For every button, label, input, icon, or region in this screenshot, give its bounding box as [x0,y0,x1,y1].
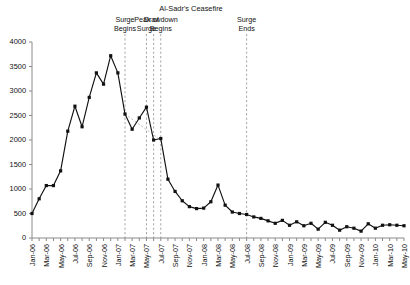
x-axis-tick-label: Jan-10 [371,244,380,266]
x-axis-tick-label: May-09 [314,244,323,268]
data-point-marker [288,224,291,227]
data-point-marker [259,217,262,220]
data-point-marker [188,205,191,208]
x-axis-tick-label: Sep-07 [171,244,180,267]
casualties-series [30,54,405,233]
data-point-marker [238,212,241,215]
data-point-marker [266,219,269,222]
data-point-marker [116,71,119,74]
event-label-line1: Surge [115,15,134,24]
data-point-marker [295,220,298,223]
event-label-surge-ends: SurgeEnds [237,15,256,33]
x-axis-tick-label: Nov-07 [185,244,194,267]
data-point-marker [145,106,148,109]
data-point-marker [209,200,212,203]
chart-canvas: Al-Sadr's Ceasefire SurgeBeginsPeak ofSu… [0,0,410,285]
data-point-marker [274,222,277,225]
y-axis-tick-label: 3000 [10,86,26,95]
y-axis-tick-label: 3500 [10,62,26,71]
ceasefire-trend-line [125,114,161,140]
ceasefire-title-label: Al-Sadr's Ceasefire [159,4,222,13]
data-point-marker [352,227,355,230]
event-label-line1: Drawdown [144,15,178,24]
x-axis-tick-label: Sep-06 [85,244,94,267]
x-axis-tick-label: Mar-08 [214,244,223,267]
x-axis-tick-label: Jan-06 [28,244,37,266]
data-point-marker [66,130,69,133]
x-axis-tick-label: Nov-06 [100,244,109,267]
data-point-marker [109,54,112,57]
x-axis-tick-label: Jan-08 [200,244,209,266]
event-label-line1: Surge [237,15,256,24]
event-label-line2: Begins [114,24,136,33]
data-point-marker [195,207,198,210]
data-point-marker [302,224,305,227]
x-axis-tick-label: Jan-07 [114,244,123,266]
y-axis-tick-label: 4000 [10,37,26,46]
data-point-marker [224,204,227,207]
data-point-marker [59,169,62,172]
data-point-marker [166,178,169,181]
x-axis-tick-label: Jul-07 [157,244,166,264]
series-markers [30,54,405,233]
data-point-marker [252,215,255,218]
x-axis-tick-label: May-07 [142,244,151,268]
y-axis-tick-label: 0 [22,233,26,242]
x-axis-tick-label: Mar-10 [386,244,395,267]
x-axis-tick-label: Jul-08 [243,244,252,264]
x-axis-tick-label: Mar-07 [128,244,137,267]
y-axis-tick-label: 500 [14,209,26,218]
data-point-marker [309,222,312,225]
data-point-marker [367,222,370,225]
data-point-marker [52,184,55,187]
event-label-surge-begins: SurgeBegins [114,15,136,33]
y-axis-tick-label: 1000 [10,184,26,193]
x-axis-tick-label: May-06 [57,244,66,268]
y-axis-ticks: 05001000150020002500300035004000 [10,37,32,242]
data-point-marker [402,224,405,227]
data-point-marker [216,183,219,186]
trend-path [125,114,161,140]
data-point-marker [181,199,184,202]
data-point-marker [30,212,33,215]
event-annotation-labels: SurgeBeginsPeak ofSurgeDrawdownBeginsSur… [114,15,256,33]
data-point-marker [45,184,48,187]
series-path [32,56,404,231]
event-label-line2: Ends [238,24,255,33]
y-axis-tick-label: 2000 [10,135,26,144]
data-point-marker [381,224,384,227]
event-label-drawdown-begins: DrawdownBegins [144,15,178,33]
data-point-marker [395,224,398,227]
y-axis-tick-label: 2500 [10,111,26,120]
y-axis-tick-label: 1500 [10,160,26,169]
chart-axes [32,42,404,238]
x-axis-tick-label: Jul-06 [71,244,80,264]
data-point-marker [245,213,248,216]
x-axis-tick-label: May-10 [400,244,409,268]
x-axis-tick-label: Mar-06 [42,244,51,267]
data-point-marker [80,125,83,128]
data-point-marker [338,229,341,232]
data-point-marker [388,223,391,226]
data-point-marker [123,112,126,115]
x-axis-tick-label: Nov-08 [271,244,280,267]
data-point-marker [159,137,162,140]
x-axis-tick-label: Jul-09 [328,244,337,264]
ceasefire-title-group: Al-Sadr's Ceasefire [159,4,222,13]
data-point-marker [345,225,348,228]
data-point-marker [131,128,134,131]
event-label-line2: Begins [150,24,172,33]
data-point-marker [374,227,377,230]
data-point-marker [331,224,334,227]
data-point-marker [317,228,320,231]
data-point-marker [359,230,362,233]
data-point-marker [152,138,155,141]
data-point-marker [102,83,105,86]
x-axis-tick-label: Sep-08 [257,244,266,267]
x-axis-tick-label: Nov-09 [357,244,366,267]
data-point-marker [95,71,98,74]
data-point-marker [173,190,176,193]
x-axis-tick-labels: Jan-06Mar-06May-06Jul-06Sep-06Nov-06Jan-… [28,244,409,268]
casualties-line-chart: Al-Sadr's Ceasefire SurgeBeginsPeak ofSu… [0,0,410,285]
data-point-marker [324,221,327,224]
